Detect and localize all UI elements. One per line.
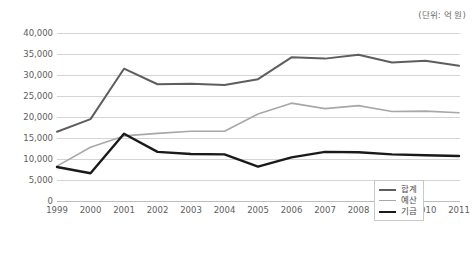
legend-item: 예산	[379, 195, 417, 206]
y-axis-tick-label: 20,000	[1, 112, 53, 122]
y-axis-tick-label: 30,000	[1, 70, 53, 80]
x-axis-tick-label: 2008	[348, 205, 370, 215]
y-axis-tick-label: 15,000	[1, 133, 53, 143]
x-axis-tick-label: 2004	[214, 205, 236, 215]
x-axis-tick-label: 2001	[113, 205, 135, 215]
x-axis-tick-label: 2007	[314, 205, 336, 215]
x-axis-tick-label: 2006	[281, 205, 303, 215]
x-axis-tick-label: 2002	[147, 205, 169, 215]
legend-label: 예산	[401, 195, 417, 206]
legend-swatch-icon	[379, 200, 396, 201]
series-line	[57, 55, 459, 132]
y-axis-tick-label: 5,000	[1, 175, 53, 185]
x-axis-tick-label: 1999	[46, 205, 68, 215]
series-line	[57, 103, 459, 166]
series-layer	[57, 33, 460, 201]
y-axis-tick-label: 35,000	[1, 49, 53, 59]
legend-swatch-icon	[379, 189, 396, 191]
legend-item: 기금	[379, 206, 417, 217]
legend-swatch-icon	[379, 211, 396, 213]
y-axis-tick-label: 25,000	[1, 91, 53, 101]
y-axis-tick-label: 40,000	[1, 28, 53, 38]
line-chart: (단위: 억 원) 05,00010,00015,00020,00025,000…	[0, 0, 474, 259]
legend-label: 기금	[401, 206, 417, 217]
x-axis-tick-label: 2011	[448, 205, 470, 215]
x-axis-tick-label: 2003	[180, 205, 202, 215]
y-axis-tick-label: 10,000	[1, 154, 53, 164]
y-axis: 05,00010,00015,00020,00025,00030,00035,0…	[0, 33, 53, 201]
x-axis-tick-label: 2000	[80, 205, 102, 215]
legend-item: 합계	[379, 184, 417, 195]
legend: 합계예산기금	[374, 180, 424, 221]
x-axis-tick-label: 2005	[247, 205, 269, 215]
legend-label: 합계	[401, 184, 417, 195]
plot-area	[57, 33, 460, 201]
unit-note: (단위: 억 원)	[418, 8, 466, 20]
series-line	[57, 134, 459, 173]
